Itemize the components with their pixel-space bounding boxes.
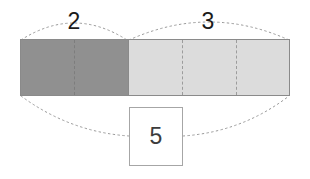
total-box: 5 <box>129 107 183 166</box>
brace-arc-total-left <box>21 96 129 136</box>
part-label-light: 3 <box>202 10 215 33</box>
unit-divider-dark-1 <box>74 40 75 95</box>
bar-part-light <box>128 39 290 96</box>
brace-arc-total-right <box>183 96 289 136</box>
part-label-dark: 2 <box>68 10 81 33</box>
bar-model-diagram: 2 3 5 <box>0 0 310 179</box>
total-value: 5 <box>150 125 163 148</box>
unit-divider-light-2 <box>236 40 237 95</box>
unit-divider-light-1 <box>182 40 183 95</box>
